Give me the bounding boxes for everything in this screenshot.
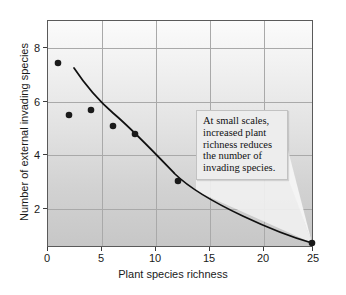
y-axis-label: Number of external invading species	[18, 32, 30, 232]
x-axis-label: Plant species richness	[0, 268, 346, 280]
xtick-label-20: 20	[257, 252, 269, 264]
ytick-mark-4	[43, 154, 47, 155]
xtick-label-10: 10	[149, 252, 161, 264]
xtick-mark-10	[155, 247, 156, 251]
xtick-mark-20	[263, 247, 264, 251]
gridline-x-10	[156, 21, 157, 246]
gridline-y-6	[48, 102, 312, 103]
xtick-label-15: 15	[203, 252, 215, 264]
ytick-mark-8	[43, 47, 47, 48]
xtick-mark-25	[312, 247, 313, 251]
callout-annotation: At small scales, increased plant richnes…	[196, 110, 288, 180]
xtick-label-0: 0	[44, 252, 50, 264]
gridline-x-5	[102, 21, 103, 246]
gridline-y-2	[48, 209, 312, 210]
callout-line-4: the number of	[203, 150, 282, 162]
gridline-y-8	[48, 48, 312, 49]
callout-line-2: increased plant	[203, 127, 282, 139]
xtick-mark-15	[209, 247, 210, 251]
xtick-label-5: 5	[98, 252, 104, 264]
callout-line-5: invading species.	[203, 162, 282, 174]
xtick-mark-0	[47, 247, 48, 251]
callout-line-3: richness reduces	[203, 139, 282, 151]
xtick-mark-5	[101, 247, 102, 251]
chart-figure: 0 5 10 15 20 25 8 6 4 2 Plant species ri…	[0, 0, 346, 295]
ytick-mark-6	[43, 101, 47, 102]
xtick-label-25: 25	[307, 252, 319, 264]
callout-line-1: At small scales,	[203, 115, 282, 127]
ytick-mark-2	[43, 208, 47, 209]
